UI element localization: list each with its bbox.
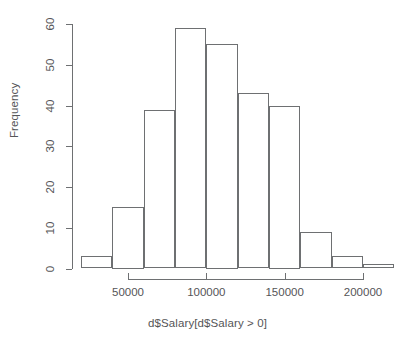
- histogram-bar: [206, 44, 237, 268]
- x-axis-endcap: [128, 273, 129, 280]
- x-axis-tick-label: 150000: [250, 286, 320, 298]
- x-axis-tick-label: 200000: [328, 286, 398, 298]
- x-axis-tick: [285, 273, 286, 280]
- histogram-bar: [144, 110, 175, 269]
- x-axis-label: d$Salary[d$Salary > 0]: [0, 317, 415, 329]
- histogram-bar: [175, 28, 206, 268]
- histogram-bar: [81, 256, 112, 268]
- x-axis-endcap: [363, 273, 364, 280]
- histogram-bar: [269, 106, 300, 269]
- histogram-bar: [300, 232, 331, 269]
- histogram-plot: Frequency 0102030405060 5000010000015000…: [0, 0, 415, 349]
- x-axis-tick-label: 100000: [171, 286, 241, 298]
- x-axis-tick: [206, 273, 207, 280]
- histogram-bar: [112, 207, 143, 268]
- histogram-bar: [363, 264, 394, 268]
- x-axis-line: [128, 279, 363, 280]
- histogram-bar: [332, 256, 363, 268]
- histogram-bar: [238, 93, 269, 268]
- x-axis-tick-label: 50000: [93, 286, 163, 298]
